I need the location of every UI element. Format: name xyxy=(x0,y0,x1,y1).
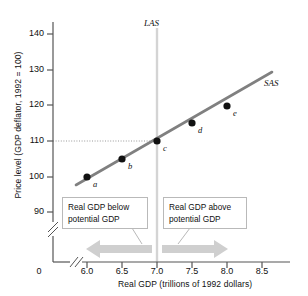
y-tick-label-130: 130 xyxy=(18,64,44,74)
x-tick-label-7-5: 7.5 xyxy=(177,266,207,276)
x-axis-title: Real GDP (trillions of 1992 dollars) xyxy=(118,279,252,289)
y-axis-break-mark-2 xyxy=(48,227,58,237)
data-point-label-a: a xyxy=(93,179,97,189)
data-point-b xyxy=(118,155,125,162)
y-tick-label-110: 110 xyxy=(18,135,44,145)
data-point-label-c: c xyxy=(163,143,167,153)
y-tick-label-140: 140 xyxy=(18,28,44,38)
data-point-c xyxy=(153,137,160,144)
y-axis-break-mark xyxy=(48,222,58,232)
origin-label: 0 xyxy=(32,266,46,276)
x-tick-label-8-5: 8.5 xyxy=(247,266,277,276)
data-point-d xyxy=(188,119,195,126)
below-callout-leader xyxy=(132,228,142,244)
callout-above-line1: Real GDP above xyxy=(169,201,242,213)
callout-below-potential: Real GDP below potential GDP xyxy=(62,197,148,229)
above-callout-leader xyxy=(178,228,190,244)
above-potential-arrow xyxy=(162,240,228,258)
y-tick-label-100: 100 xyxy=(18,171,44,181)
data-point-e xyxy=(223,102,230,109)
callout-above-line2: potential GDP xyxy=(169,213,242,225)
sas-curve xyxy=(76,72,272,185)
y-tick-label-90: 90 xyxy=(18,206,44,216)
las-curve-label: LAS xyxy=(144,18,159,28)
y-axis-title: Price level (GDP deflator, 1992 = 100) xyxy=(13,30,23,220)
y-tick-label-120: 120 xyxy=(18,99,44,109)
chart-canvas xyxy=(0,0,308,296)
callout-below-line2: potential GDP xyxy=(68,213,143,225)
x-tick-label-6-0: 6.0 xyxy=(72,266,102,276)
sas-curve-label: SAS xyxy=(264,78,279,88)
callout-below-line1: Real GDP below xyxy=(68,201,143,213)
x-tick-label-6-5: 6.5 xyxy=(107,266,137,276)
data-point-label-b: b xyxy=(128,161,132,171)
x-tick-label-8-0: 8.0 xyxy=(212,266,242,276)
callout-above-potential: Real GDP above potential GDP xyxy=(163,197,247,229)
data-point-label-d: d xyxy=(198,125,202,135)
below-potential-arrow xyxy=(86,240,152,258)
data-point-label-e: e xyxy=(233,108,237,118)
x-tick-label-7-0: 7.0 xyxy=(142,266,172,276)
data-point-a xyxy=(83,173,90,180)
supply-curve-figure: Price level (GDP deflator, 1992 = 100) R… xyxy=(0,0,308,296)
